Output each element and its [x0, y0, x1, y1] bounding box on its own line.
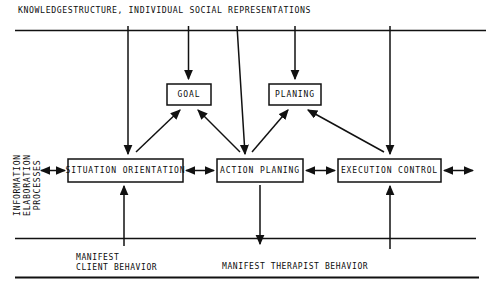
arrow-action-to-planing — [252, 110, 288, 152]
execution-control-box-label: EXECUTION CONTROL — [338, 159, 441, 182]
manifest-client-line1: MANIFEST — [76, 253, 119, 262]
manifest-client-behavior-label: MANIFESTCLIENT BEHAVIOR — [76, 253, 157, 272]
situation-orientation-box-label: SITUATION ORIENTATION — [68, 159, 183, 182]
manifest-therapist-behavior-label: MANIFEST THERAPIST BEHAVIOR — [222, 262, 368, 271]
arrow-action-to-goal — [198, 110, 240, 152]
diagram-canvas: KNOWLEDGESTRUCTURE, INDIVIDUAL SOCIAL RE… — [0, 0, 498, 292]
planing-box-label: PLANING — [269, 84, 321, 105]
arrow-situation-to-goal — [136, 110, 180, 152]
arrow-execution-to-planing — [308, 110, 384, 152]
action-planing-box-label: ACTION PLANING — [217, 159, 303, 182]
arrow-top-to-action-planing — [237, 26, 245, 154]
information-elaboration-processes-label: INFORMATION ELABORATIONPROCESSES — [12, 125, 42, 245]
goal-box-label: GOAL — [167, 84, 211, 105]
diagram-lines-layer — [0, 0, 498, 292]
diagram-title: KNOWLEDGESTRUCTURE, INDIVIDUAL SOCIAL RE… — [18, 5, 311, 15]
manifest-client-line2: CLIENT BEHAVIOR — [76, 263, 157, 272]
